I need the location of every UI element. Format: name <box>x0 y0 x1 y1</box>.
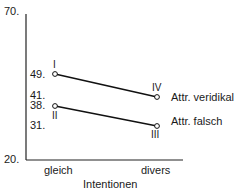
series-line-attr-veridikal <box>55 74 157 97</box>
x-tick-gleich: gleich <box>44 164 73 176</box>
x-axis-title: Intentionen <box>83 178 137 190</box>
y-tick-70: 70. <box>4 5 19 17</box>
y-tick-49: 49. <box>30 68 45 80</box>
y-tick-20: 20. <box>4 153 19 165</box>
y-tick-38: 38. <box>30 99 45 111</box>
y-tick-31: 31. <box>30 119 45 131</box>
marker-I <box>53 72 58 77</box>
line-chart: 70. 49. 41. 38. 31. 20. I IV II III Attr… <box>0 0 235 195</box>
point-label-III: III <box>151 129 159 140</box>
point-label-I: I <box>53 59 56 70</box>
series-label-attr-falsch: Attr. falsch <box>171 115 222 127</box>
marker-III <box>155 124 160 129</box>
series-label-attr-veridikal: Attr. veridikal <box>171 91 234 103</box>
point-label-IV: IV <box>152 82 162 93</box>
x-tick-divers: divers <box>141 164 171 176</box>
series-line-attr-falsch <box>55 106 157 126</box>
marker-IV <box>155 95 160 100</box>
marker-II <box>53 104 58 109</box>
point-label-II: II <box>52 110 58 121</box>
